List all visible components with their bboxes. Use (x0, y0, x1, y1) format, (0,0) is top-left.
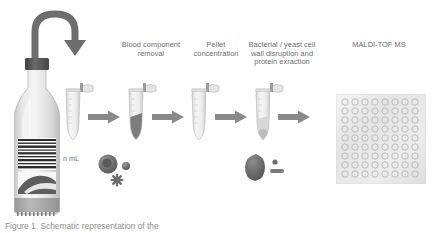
workflow-diagram: Blood component removal Pellet concentra… (0, 0, 438, 233)
arrow-step-2-icon (152, 110, 184, 124)
pellet-protein-group (243, 152, 293, 186)
blood-cells-group (96, 153, 142, 189)
step-label-maldi-tof-ms: MALDI-TOF MS (344, 41, 414, 50)
arrow-step-3-icon (215, 110, 247, 124)
step-label-cell-wall-disruption: Bacterial / yeast cell wall disruption a… (248, 41, 316, 67)
transfer-arrow-icon (26, 8, 98, 58)
arrow-step-4-icon (278, 110, 310, 124)
step-label-pellet-concentration: Pellet concentration (184, 41, 248, 58)
maldi-target-plate (336, 94, 426, 184)
volume-annotation: n mL (63, 154, 79, 163)
arrow-step-1-icon (88, 110, 120, 124)
blood-culture-bottle (14, 58, 60, 218)
step-label-blood-component-removal: Blood component removal (118, 41, 184, 58)
figure-caption: Figure 1. Schematic representation of th… (5, 221, 305, 231)
